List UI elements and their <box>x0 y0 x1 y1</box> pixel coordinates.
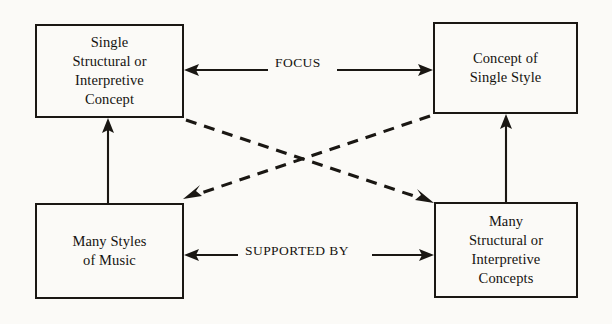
connector-right-vertical <box>500 114 512 202</box>
box-concept-of-single-style[interactable]: Concept of Single Style <box>433 22 578 114</box>
connector-diagonal-tr-bl <box>183 116 430 199</box>
connector-left-vertical <box>102 118 114 203</box>
arrow-head-down-right <box>415 189 434 203</box>
diagram-canvas: Single Structural or Interpretive Concep… <box>0 0 612 324</box>
box-label: Many Styles of Music <box>68 232 150 270</box>
box-label: Single Structural or Interpretive Concep… <box>68 33 150 110</box>
box-single-structural-or-interpretive-concept[interactable]: Single Structural or Interpretive Concep… <box>35 24 184 118</box>
box-many-styles-of-music[interactable]: Many Styles of Music <box>35 203 184 299</box>
connector-label-supported-by: SUPPORTED BY <box>238 243 356 259</box>
arrow-head-down-left <box>183 185 202 199</box>
box-label: Many Structural or Interpretive Concepts <box>465 212 547 289</box>
box-many-structural-or-interpretive-concepts[interactable]: Many Structural or Interpretive Concepts <box>434 202 578 298</box>
connector-diagonal-tl-br <box>186 120 434 203</box>
connector-label-focus: FOCUS <box>268 55 328 71</box>
box-label: Concept of Single Style <box>466 49 546 87</box>
